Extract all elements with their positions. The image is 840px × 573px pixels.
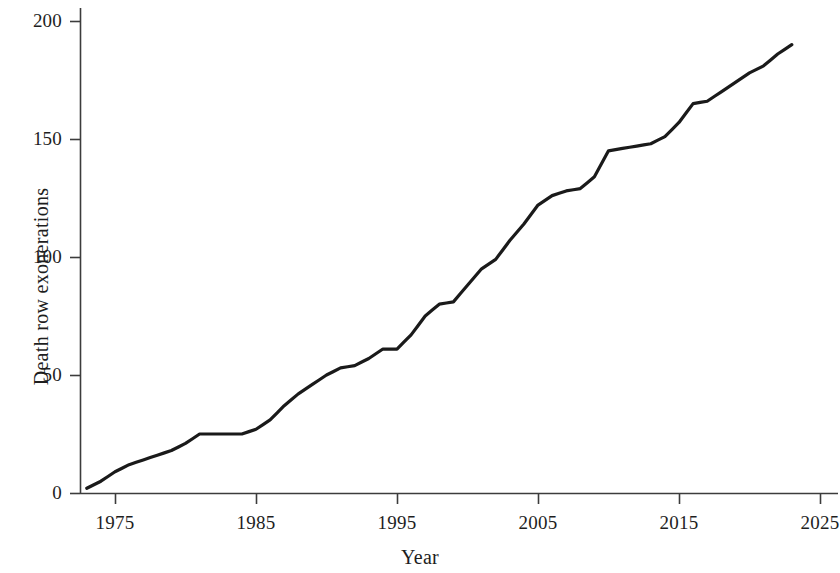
x-tick-label: 1985 bbox=[237, 512, 276, 534]
x-tick-label: 1995 bbox=[378, 512, 417, 534]
line-chart-plot bbox=[0, 0, 840, 573]
x-tick-label: 2025 bbox=[801, 512, 840, 534]
x-tick-label: 2005 bbox=[519, 512, 558, 534]
y-axis-title: Death row exonerations bbox=[30, 0, 60, 573]
chart-figure: 050100150200 197519851995200520152025 De… bbox=[0, 0, 840, 573]
x-axis-ticks bbox=[116, 494, 821, 504]
x-tick-label: 1975 bbox=[96, 512, 135, 534]
x-axis-title: Year bbox=[0, 546, 840, 569]
data-series-line bbox=[87, 45, 792, 489]
y-axis-ticks bbox=[70, 22, 80, 494]
x-tick-label: 2015 bbox=[660, 512, 699, 534]
